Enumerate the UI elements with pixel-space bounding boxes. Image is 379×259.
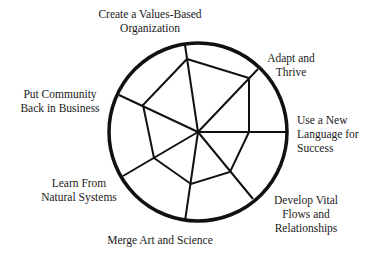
label-community: Put CommunityBack in Business	[20, 88, 100, 114]
label-line: Relationships	[275, 222, 338, 235]
spoke-natural	[123, 132, 198, 176]
label-line: Develop Vital	[274, 194, 338, 207]
label-natural: Learn FromNatural Systems	[41, 177, 117, 204]
label-line: Adapt and	[267, 52, 315, 65]
label-line: Learn From	[52, 177, 107, 189]
label-values: Create a Values-BasedOrganization	[98, 8, 201, 35]
spoke-values	[185, 45, 198, 132]
spoke-community	[119, 95, 198, 132]
values-web-diagram: Create a Values-BasedOrganizationAdapt a…	[0, 0, 379, 259]
label-line: Language for	[297, 128, 359, 141]
label-line: Thrive	[276, 66, 307, 78]
label-line: Create a Values-Based	[98, 8, 201, 20]
label-line: Flows and	[282, 208, 330, 220]
label-adapt: Adapt andThrive	[267, 52, 315, 78]
label-line: Success	[297, 142, 334, 154]
diagram-canvas: Create a Values-BasedOrganizationAdapt a…	[0, 0, 379, 259]
label-line: Put Community	[23, 88, 96, 101]
label-line: Organization	[120, 22, 180, 35]
label-line: Merge Art and Science	[107, 234, 213, 247]
label-line: Natural Systems	[41, 191, 117, 204]
spoke-merge	[185, 132, 198, 221]
label-flows: Develop VitalFlows andRelationships	[274, 194, 338, 235]
label-line: Use a New	[297, 114, 348, 126]
label-line: Back in Business	[20, 102, 100, 114]
label-merge: Merge Art and Science	[107, 234, 213, 247]
label-language: Use a NewLanguage forSuccess	[297, 114, 359, 154]
